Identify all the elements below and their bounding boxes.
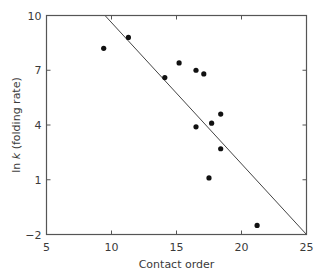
- y-tick-label: −2: [25, 229, 41, 242]
- data-point: [218, 146, 223, 151]
- y-tick-label: 4: [35, 119, 42, 132]
- plot-frame: [47, 16, 307, 235]
- y-axis-label-part: ln: [10, 159, 23, 173]
- data-point: [193, 68, 198, 73]
- tick-labels: 510152025−214710: [25, 10, 313, 254]
- y-axis-label: ln k (folding rate): [10, 77, 23, 172]
- x-tick-label: 5: [43, 241, 50, 254]
- data-point: [218, 111, 223, 116]
- data-point: [177, 60, 182, 65]
- y-tick-label: 1: [35, 174, 42, 187]
- data-point: [255, 223, 260, 228]
- ticks: [47, 16, 307, 235]
- y-tick-label: 10: [28, 10, 42, 23]
- data-point: [162, 75, 167, 80]
- x-tick-label: 25: [300, 241, 314, 254]
- scatter-chart: 510152025−214710 Contact order ln k (fol…: [0, 0, 331, 279]
- y-tick-label: 7: [35, 64, 42, 77]
- fit-line-group: [105, 16, 307, 235]
- data-point: [126, 35, 131, 40]
- data-point: [101, 46, 106, 51]
- data-point: [206, 175, 211, 180]
- x-tick-label: 15: [170, 241, 184, 254]
- data-points: [101, 35, 260, 228]
- x-axis-label: Contact order: [139, 258, 215, 271]
- data-point: [209, 121, 214, 126]
- y-axis-label-part: (folding rate): [10, 77, 23, 153]
- data-point: [193, 124, 198, 129]
- data-point: [201, 71, 206, 76]
- x-tick-label: 10: [105, 241, 119, 254]
- fit-line: [105, 16, 307, 235]
- x-tick-label: 20: [235, 241, 249, 254]
